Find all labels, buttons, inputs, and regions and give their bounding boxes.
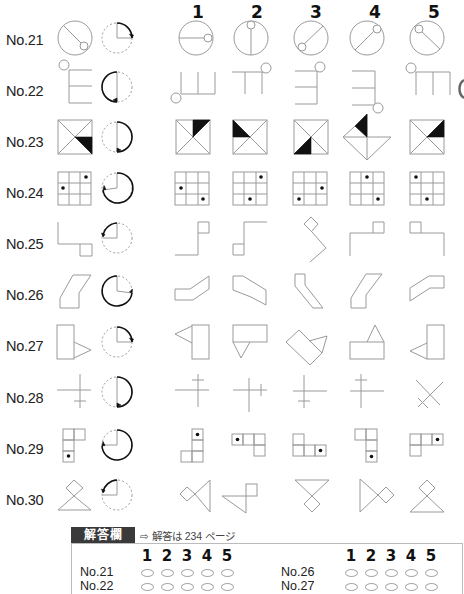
answer-bubble-no26-choice-3[interactable]: [385, 569, 398, 577]
row26-choice-5[interactable]: [410, 276, 444, 301]
row23-choice-4[interactable]: [343, 114, 391, 160]
row23-choice-1[interactable]: [176, 120, 210, 154]
row29-choice-5[interactable]: [410, 434, 443, 456]
row30-choice-4[interactable]: [360, 479, 394, 512]
answer-col-2-right: 2: [364, 547, 378, 565]
answer-row-label: No.27: [281, 579, 314, 593]
row27-choice-4[interactable]: [350, 325, 384, 359]
row24-choice-4[interactable]: [350, 172, 384, 205]
row25-choice-3[interactable]: [304, 217, 326, 262]
answer-col-3-left: 3: [180, 547, 194, 565]
row30-rotation-indicator: [102, 480, 133, 510]
row21-choice-2[interactable]: [234, 21, 268, 55]
row24-choice-3[interactable]: [293, 172, 327, 205]
row26-choice-1[interactable]: [175, 276, 209, 300]
answer-bubble-no22-choice-2[interactable]: [161, 583, 174, 591]
row29-choice-2[interactable]: [232, 434, 265, 456]
answer-bubble-no27-choice-1[interactable]: [345, 583, 358, 591]
row26-choice-3[interactable]: [295, 274, 323, 308]
row23-rotation-indicator: [102, 122, 132, 152]
row29-choice-4[interactable]: [355, 429, 377, 462]
row21-example: [58, 21, 92, 55]
row25-choice-5[interactable]: [410, 222, 444, 256]
row28-choice-3[interactable]: [293, 375, 327, 408]
answer-col-4-left: 4: [200, 547, 214, 565]
answer-bubble-no27-choice-2[interactable]: [365, 583, 378, 591]
row21-choice-5[interactable]: [410, 21, 444, 55]
answer-col-1-left: 1: [140, 547, 154, 565]
row28-choice-4[interactable]: [350, 374, 384, 408]
answer-bubble-no27-choice-5[interactable]: [425, 583, 438, 591]
answer-bubble-no21-choice-2[interactable]: [161, 569, 174, 577]
answer-bubble-no21-choice-4[interactable]: [201, 569, 214, 577]
row26-example: [60, 275, 91, 308]
answer-bubble-no22-choice-1[interactable]: [141, 583, 154, 591]
row27-choice-1[interactable]: [175, 325, 209, 359]
answer-bubble-no22-choice-4[interactable]: [201, 583, 214, 591]
row21-choice-1[interactable]: [179, 21, 213, 55]
row28-choice-5[interactable]: [416, 380, 443, 408]
answer-bubble-no27-choice-4[interactable]: [405, 583, 418, 591]
row25-rotation-indicator: [102, 223, 133, 253]
answer-col-1-right: 1: [344, 547, 358, 565]
row27-choice-2[interactable]: [233, 325, 267, 358]
answer-bubble-no27-choice-3[interactable]: [385, 583, 398, 591]
row23-choice-3[interactable]: [294, 120, 328, 154]
row23-choice-5[interactable]: [410, 120, 444, 154]
answer-bubble-no22-choice-5[interactable]: [221, 583, 234, 591]
row22-choice-2[interactable]: [232, 63, 271, 94]
row22-choice-1[interactable]: [171, 72, 215, 103]
row26-choice-4[interactable]: [351, 274, 382, 308]
row29-rotation-indicator: [102, 430, 132, 460]
answer-col-5-left: 5: [220, 547, 234, 565]
row22-choice-4[interactable]: [352, 71, 383, 113]
row30-choice-1[interactable]: [180, 480, 210, 512]
row24-example: [58, 172, 91, 205]
row22-choice-3[interactable]: [295, 62, 325, 104]
row27-rotation-indicator: [102, 327, 134, 357]
answer-row-label: No.21: [80, 565, 113, 579]
answer-bubble-no21-choice-1[interactable]: [141, 569, 154, 577]
row27-choice-3[interactable]: [286, 330, 327, 365]
row23-choice-2[interactable]: [233, 120, 267, 154]
row24-choice-5[interactable]: [410, 172, 444, 205]
row22-choice-5[interactable]: [406, 63, 450, 95]
answer-sheet: 1 2 3 4 5 1 2 3 4 5 No.21 No.22 No.26 No…: [71, 543, 463, 594]
answer-bubble-no21-choice-3[interactable]: [181, 569, 194, 577]
row28-rotation-indicator: [102, 377, 132, 407]
row24-choice-2[interactable]: [233, 172, 267, 205]
answer-bubble-no26-choice-4[interactable]: [405, 569, 418, 577]
row29-example: [63, 429, 85, 462]
answer-col-4-right: 4: [404, 547, 418, 565]
answer-bubble-no26-choice-2[interactable]: [365, 569, 378, 577]
row28-example: [57, 374, 91, 408]
answer-bubble-no26-choice-1[interactable]: [345, 569, 358, 577]
answer-col-5-right: 5: [424, 547, 438, 565]
row30-choice-2[interactable]: [222, 484, 257, 513]
row24-choice-1[interactable]: [175, 172, 209, 205]
answer-bubble-no22-choice-3[interactable]: [181, 583, 194, 591]
row29-choice-3[interactable]: [293, 434, 326, 456]
row30-choice-5[interactable]: [410, 480, 444, 512]
row25-choice-4[interactable]: [350, 222, 384, 256]
row21-choice-4[interactable]: [350, 21, 384, 55]
row27-choice-5[interactable]: [410, 325, 444, 359]
row30-example: [58, 480, 91, 510]
row28-choice-1[interactable]: [175, 374, 209, 407]
answer-bubble-no21-choice-5[interactable]: [221, 569, 234, 577]
row30-choice-3[interactable]: [295, 480, 329, 512]
row28-choice-2[interactable]: [233, 378, 267, 412]
answer-col-3-right: 3: [384, 547, 398, 565]
row26-rotation-indicator: [102, 276, 133, 306]
row22-overflow-mark: [459, 80, 464, 98]
row27-example: [57, 325, 91, 359]
row29-choice-1[interactable]: [181, 429, 203, 462]
answer-bubble-no26-choice-5[interactable]: [425, 569, 438, 577]
row26-choice-2[interactable]: [233, 276, 266, 305]
row25-choice-1[interactable]: [175, 222, 209, 255]
row21-choice-3[interactable]: [294, 21, 328, 55]
row25-example: [58, 222, 92, 256]
row25-choice-2[interactable]: [233, 222, 267, 255]
row23-example: [58, 120, 92, 154]
answer-row-label: No.26: [281, 565, 314, 579]
